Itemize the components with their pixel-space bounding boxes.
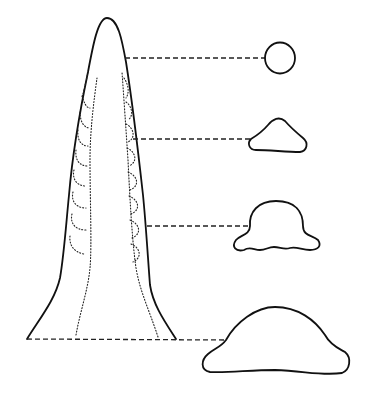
dotted-chamber-left-6: [73, 192, 86, 208]
cross-section-4-dome: [203, 307, 350, 374]
cross-section-2-triangle: [249, 118, 307, 152]
dotted-chamber-left-5: [74, 170, 87, 186]
dotted-chamber-left-8: [70, 236, 84, 254]
cross-sections: [203, 43, 350, 374]
diagram-canvas: [0, 0, 375, 398]
inner-wall-left: [70, 78, 97, 335]
leader-line-4: [27, 339, 226, 340]
leader-lines: [27, 58, 265, 340]
dotted-chamber-left-3: [78, 130, 88, 146]
cone-body: [27, 18, 176, 339]
dotted-chamber-right-2: [126, 102, 132, 120]
dotted-chamber-left-7: [72, 214, 86, 230]
cone-outline: [27, 18, 176, 339]
dotted-chamber-left-4: [76, 150, 88, 166]
cone-cross-section-diagram: [0, 0, 375, 398]
dotted-chamber-right-1: [124, 78, 128, 98]
cross-section-1-circle: [265, 43, 295, 74]
dotted-chamber-left-2: [80, 112, 90, 128]
